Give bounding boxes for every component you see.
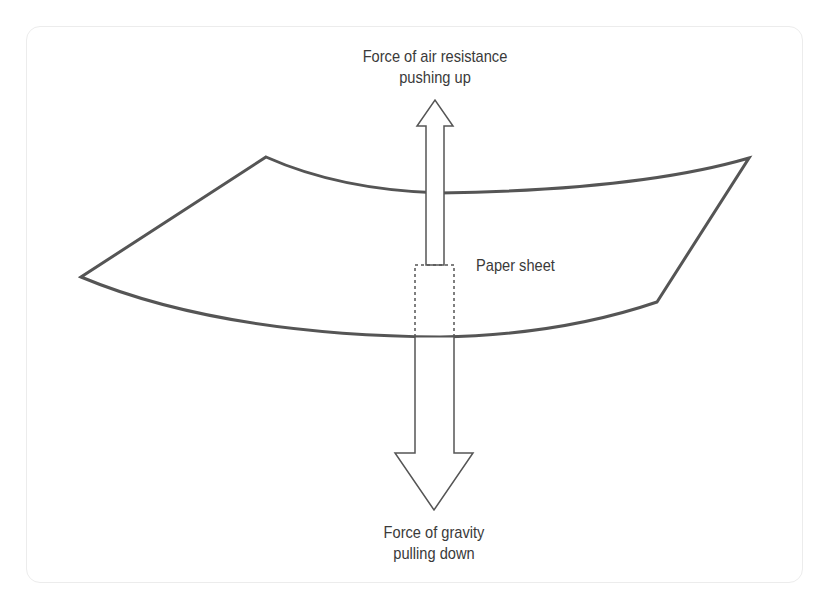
gravity-label: Force of gravity pulling down	[305, 522, 563, 564]
air-resistance-label-line2: pushing up	[306, 67, 564, 88]
paper-sheet-label: Paper sheet	[476, 255, 579, 276]
force-diagram	[0, 0, 830, 611]
air-resistance-label: Force of air resistance pushing up	[306, 46, 564, 88]
gravity-label-line2: pulling down	[305, 543, 563, 564]
gravity-arrow-icon	[395, 337, 473, 510]
gravity-label-line1: Force of gravity	[305, 522, 563, 543]
air-resistance-label-line1: Force of air resistance	[306, 46, 564, 67]
